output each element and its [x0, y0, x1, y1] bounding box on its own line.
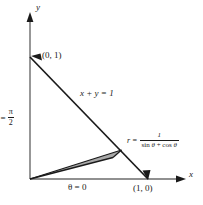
polar-equation-fraction: 1 sin θ + cos θ: [140, 132, 179, 150]
y-axis-label: y: [36, 2, 40, 12]
x-axis-label: x: [189, 169, 193, 179]
math-figure: y x (0, 1) (1, 0) θ = 0 θ = π 2 x + y = …: [0, 0, 203, 205]
sin-function: sin: [142, 141, 150, 149]
figure-canvas: [0, 0, 203, 205]
polar-equation-label: r = 1 sin θ + cos θ: [127, 132, 179, 150]
theta-symbol-2: θ: [173, 141, 176, 149]
theta-half-pi-label: θ = π 2: [0, 108, 14, 127]
theta-half-pi-lhs: θ =: [0, 113, 6, 123]
polar-equation-lhs: r =: [127, 136, 138, 145]
polar-denominator: sin θ + cos θ: [140, 142, 179, 149]
point-label-0-1: (0, 1): [42, 50, 62, 60]
polar-numerator: 1: [155, 132, 163, 139]
fraction-denominator-two: 2: [8, 119, 14, 127]
pi-over-two-fraction: π 2: [8, 108, 14, 127]
cos-function: cos: [162, 141, 171, 149]
wedge-lower-edge: [30, 158, 113, 180]
y-axis-arrowhead: [27, 12, 34, 22]
fraction-numerator-pi: π: [8, 108, 14, 116]
theta-symbol-1: θ: [151, 141, 154, 149]
line-equation-label: x + y = 1: [80, 88, 114, 98]
plus-sign: +: [157, 141, 161, 149]
x-axis-arrowhead: [176, 176, 186, 183]
wedge-upper-edge: [30, 150, 122, 179]
point-label-1-0: (1, 0): [133, 183, 153, 193]
theta-zero-label: θ = 0: [68, 182, 86, 192]
